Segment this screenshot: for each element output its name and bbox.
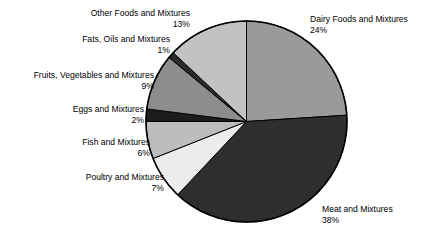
callout-label-poultry: Poultry and Mixtures xyxy=(36,172,164,183)
pie-slice-dairy xyxy=(247,21,347,122)
callout-percent-fruits-vegetables: 9% xyxy=(6,81,154,92)
callout-percent-other-foods: 13% xyxy=(60,19,190,30)
callout-dairy: Dairy Foods and Mixtures 24% xyxy=(310,14,438,36)
callout-poultry: Poultry and Mixtures 7% xyxy=(36,172,164,194)
callout-label-other-foods: Other Foods and Mixtures xyxy=(60,8,190,19)
callout-label-dairy: Dairy Foods and Mixtures xyxy=(310,14,438,25)
callout-percent-dairy: 24% xyxy=(310,25,438,36)
callout-label-fish: Fish and Mixtures xyxy=(34,137,150,148)
callout-fats-oils: Fats, Oils and Mixtures 1% xyxy=(38,34,170,56)
callout-fish: Fish and Mixtures 6% xyxy=(34,137,150,159)
callout-other-foods: Other Foods and Mixtures 13% xyxy=(60,8,190,30)
callout-label-fruits-vegetables: Fruits, Vegetables and Mixtures xyxy=(6,70,154,81)
pie-slices-group xyxy=(146,21,347,222)
callout-percent-fish: 6% xyxy=(34,148,150,159)
callout-label-eggs: Eggs and Mixtures xyxy=(24,104,144,115)
callout-percent-poultry: 7% xyxy=(36,183,164,194)
callout-label-fats-oils: Fats, Oils and Mixtures xyxy=(38,34,170,45)
callout-meat: Meat and Mixtures 38% xyxy=(322,204,438,226)
pie-chart-figure: Other Foods and Mixtures 13% Fats, Oils … xyxy=(0,0,438,236)
callout-label-meat: Meat and Mixtures xyxy=(322,204,438,215)
callout-eggs: Eggs and Mixtures 2% xyxy=(24,104,144,126)
callout-fruits-vegetables: Fruits, Vegetables and Mixtures 9% xyxy=(6,70,154,92)
callout-percent-fats-oils: 1% xyxy=(38,45,170,56)
callout-percent-eggs: 2% xyxy=(24,115,144,126)
callout-percent-meat: 38% xyxy=(322,215,438,226)
